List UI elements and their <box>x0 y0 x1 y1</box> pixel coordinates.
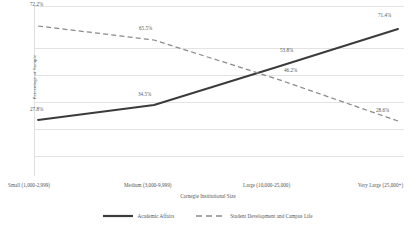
point-label-aa-large: 53.8% <box>280 48 293 53</box>
x-tick-verylarge: Very Large (25,000+) <box>358 182 403 188</box>
x-tick-medium: Medium (3,000-9,999) <box>124 182 172 188</box>
line-chart: 72.2% 65.5% 46.2% 28.6% 27.8% 34.5% 53.8… <box>0 0 416 232</box>
legend-item-student-development[interactable]: Student Development and Campus Life <box>196 213 312 219</box>
legend-swatch-dashed-icon <box>196 213 226 219</box>
legend-label-academic-affairs: Academic Affairs <box>137 213 174 219</box>
series-layer <box>34 6 404 176</box>
x-axis-title: Carnegie Institutional Size <box>0 193 416 199</box>
plot-area: 72.2% 65.5% 46.2% 28.6% 27.8% 34.5% 53.8… <box>34 6 404 176</box>
series-line-student-development <box>38 26 398 121</box>
point-label-sd-small: 72.2% <box>30 2 43 7</box>
legend-item-academic-affairs[interactable]: Academic Affairs <box>103 213 174 219</box>
y-axis-title: Percentage of Sample <box>32 55 37 100</box>
legend-label-student-development: Student Development and Campus Life <box>230 213 312 219</box>
point-label-sd-medium: 65.5% <box>139 26 152 31</box>
x-tick-small: Small (1,000-2,999) <box>8 182 50 188</box>
point-label-aa-small: 27.8% <box>30 107 43 112</box>
point-label-sd-large: 46.2% <box>284 68 297 73</box>
point-label-sd-verylarge: 28.6% <box>376 108 389 113</box>
point-label-aa-medium: 34.5% <box>138 92 151 97</box>
legend: Academic Affairs Student Development and… <box>0 213 416 219</box>
point-label-aa-verylarge: 71.4% <box>378 13 391 18</box>
x-tick-large: Large (10,000-25,000) <box>243 182 290 188</box>
series-line-academic-affairs <box>38 29 398 120</box>
legend-swatch-solid-icon <box>103 213 133 219</box>
